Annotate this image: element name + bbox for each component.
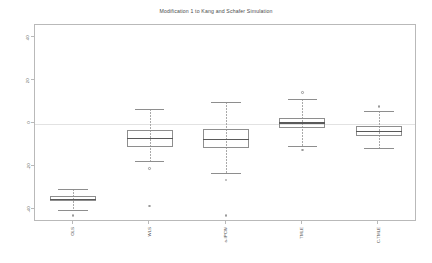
x-tick-mark <box>225 221 226 224</box>
x-tick-label: C-TMLE <box>376 227 381 243</box>
whisker-cap-upper <box>135 109 164 110</box>
outlier-point <box>72 214 74 216</box>
x-tick-label: a-IPCW <box>223 227 228 242</box>
outlier-point <box>301 91 303 93</box>
y-tick-label: -40 <box>26 207 31 213</box>
median-line <box>356 131 402 132</box>
median-line <box>50 199 96 200</box>
x-axis: OLSWLSa-IPCWTMLEC-TMLE <box>34 221 416 263</box>
y-tick-label: -20 <box>26 164 31 170</box>
whisker-cap-upper <box>58 189 87 190</box>
whisker-cap-upper <box>364 111 393 112</box>
outlier-point <box>148 205 150 207</box>
boxplot-a-ipcw <box>203 25 249 220</box>
x-tick-label: OLS <box>70 227 75 236</box>
plot-area <box>34 24 416 221</box>
x-tick-mark <box>301 221 302 224</box>
whisker-cap-lower <box>288 146 317 147</box>
chart-canvas: Modification 1 to Kang and Schafer Simul… <box>0 0 432 263</box>
median-line <box>127 138 173 139</box>
outlier-point <box>301 149 303 151</box>
outlier-point <box>378 105 380 107</box>
whisker-cap-lower <box>58 210 87 211</box>
boxplot-ols <box>50 25 96 220</box>
outlier-point <box>225 179 227 181</box>
chart-title: Modification 1 to Kang and Schafer Simul… <box>0 8 432 14</box>
y-tick-label: 40 <box>26 35 31 40</box>
outlier-point <box>225 214 227 216</box>
whisker-cap-lower <box>211 173 240 174</box>
whisker-cap-upper <box>288 99 317 100</box>
x-tick-mark <box>72 221 73 224</box>
x-tick-label: TMLE <box>299 227 304 239</box>
whisker-cap-lower <box>135 161 164 162</box>
whisker-cap-upper <box>211 102 240 103</box>
boxplot-wls <box>127 25 173 220</box>
x-tick-mark <box>148 221 149 224</box>
y-tick-label: 20 <box>26 78 31 83</box>
median-line <box>279 122 325 123</box>
x-tick-label: WLS <box>147 227 152 237</box>
outlier-point <box>148 167 150 169</box>
median-line <box>203 139 249 140</box>
boxplot-c-tmle <box>356 25 402 220</box>
y-axis: 40200-20-40 <box>0 24 34 221</box>
boxplot-tmle <box>279 25 325 220</box>
y-tick-label: 0 <box>26 121 31 123</box>
whisker-cap-lower <box>364 148 393 149</box>
x-tick-mark <box>377 221 378 224</box>
